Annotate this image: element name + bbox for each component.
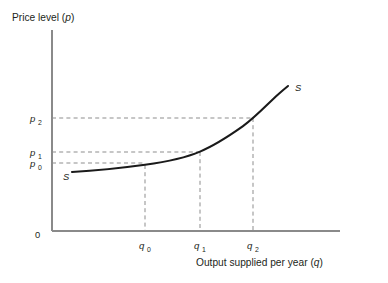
y-tick-p2-sub: 2 [38, 119, 42, 126]
x-tick-q0: q 0 [139, 240, 151, 253]
x-axis-title-prefix: Output supplied per year ( [196, 257, 314, 268]
y-tick-p1-var: p [29, 147, 36, 158]
y-tick-p0-sub: 0 [38, 164, 42, 171]
svg-text:Price level (p): Price level (p) [12, 12, 74, 23]
curve-label-end: S [295, 82, 302, 93]
x-tick-q0-sub: 0 [147, 246, 151, 253]
x-tick-q1-var: q [194, 240, 200, 251]
x-tick-q2: q 2 [247, 240, 259, 253]
chart-canvas: S S 0 p 2 p 1 p 0 q 0 q 1 q 2 [0, 0, 388, 283]
y-tick-p0-var: p [29, 158, 36, 169]
x-tick-q0-var: q [139, 240, 145, 251]
y-axis-title-prefix: Price level ( [12, 12, 66, 23]
y-tick-p2: p 2 [29, 113, 42, 126]
x-tick-q2-var: q [247, 240, 253, 251]
y-axis-title: Price level (p) [12, 12, 74, 23]
x-tick-q1-sub: 1 [202, 246, 206, 253]
y-tick-p1-sub: 1 [38, 153, 42, 160]
y-tick-p2-var: p [29, 113, 36, 124]
x-axis-title: Output supplied per year (q) [196, 257, 323, 268]
x-tick-q1: q 1 [194, 240, 206, 253]
supply-curve-figure: S S 0 p 2 p 1 p 0 q 0 q 1 q 2 [0, 0, 388, 283]
svg-text:Output supplied per year (q): Output supplied per year (q) [196, 257, 323, 268]
x-tick-q2-sub: 2 [255, 246, 259, 253]
curve-label-start: S [63, 171, 70, 182]
origin-label: 0 [35, 229, 40, 240]
y-axis-title-suffix: ) [71, 12, 74, 23]
supply-curve-path [72, 86, 288, 172]
x-axis-title-suffix: ) [319, 257, 322, 268]
